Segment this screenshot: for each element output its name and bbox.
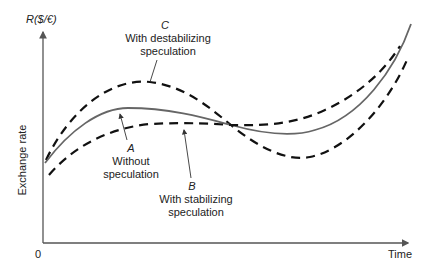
x-axis-label: Time	[388, 248, 412, 260]
annotation-c-letter: C	[161, 19, 169, 31]
annotation-c-line2: speculation	[140, 45, 196, 57]
exchange-rate-chart: R($/€) Exchange rate 0 Time C With desta…	[0, 0, 432, 272]
y-axis-label: Exchange rate	[16, 125, 28, 196]
annotation-b-line2: speculation	[168, 206, 224, 218]
annotation-b: B With stabilizing speculation	[159, 180, 232, 218]
annotation-c-line1: With destabilizing	[125, 32, 211, 44]
annotation-a: A Without speculation	[103, 142, 159, 180]
annotation-b-letter: B	[188, 180, 195, 192]
curve-b-stabilizing	[49, 46, 400, 175]
y-unit-label: R($/€)	[26, 13, 57, 25]
annotation-a-line1: Without	[112, 155, 149, 167]
curve-a-without-speculation	[45, 24, 411, 163]
annotation-b-line1: With stabilizing	[159, 193, 232, 205]
leader-b	[184, 130, 191, 178]
annotation-a-line2: speculation	[103, 168, 159, 180]
origin-label: 0	[35, 248, 41, 260]
annotation-c: C With destabilizing speculation	[125, 19, 211, 57]
annotation-a-letter: A	[126, 142, 134, 154]
leader-c	[150, 60, 157, 82]
